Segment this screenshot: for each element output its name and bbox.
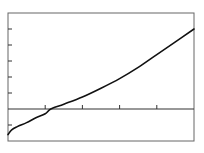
y-axis-ticks: [8, 29, 12, 125]
chart-caption: [0, 144, 204, 152]
plot-frame: [8, 13, 194, 141]
line-chart: [0, 0, 204, 153]
data-curve: [8, 29, 194, 135]
